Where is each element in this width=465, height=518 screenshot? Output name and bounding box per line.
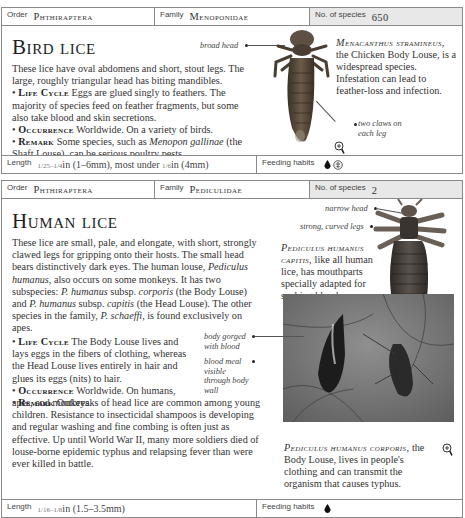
remark-text-pre: Some species, such as [57,136,147,147]
annotation-leader-line [254,336,304,337]
entry-title: Human lice [12,209,118,234]
entry-title: Bird lice [12,35,96,60]
length-label: Length [7,502,31,511]
length-text: in (1–6mm), most under [62,159,159,170]
feeding-habits-label: Feeding habits [262,502,314,511]
life-cycle-label: Life Cycle [18,87,69,98]
order-cell: Order Phthiraptera [2,181,155,198]
occurrence-label: Occurrence [18,385,74,396]
entry-footer-bird-lice: Length 1/25–1/4in (1–6mm), most under 1/… [1,155,463,174]
intro-species-2: P. humanus [61,286,108,297]
intro-text-5: subsp. [79,298,105,309]
order-label: Order [7,10,27,19]
species-count-value: 650 [372,12,389,23]
annotation-dot [252,360,255,363]
species-caption-corporis: Pediculus humanus corporis, the Body Lou… [284,442,434,490]
magnify-zoom-icon[interactable] [442,443,453,457]
entry-body-human-lice: Human lice These lice are small, pale, a… [1,199,463,499]
remark-label: Remark [18,397,54,408]
intro-species-5: capitis [107,298,134,309]
occurrence-label: Occurrence [18,124,74,135]
bird-louse-illustration [272,28,332,148]
annotation-body-gorged: body gorged with blood [204,332,259,351]
remark-block: • Remark Outbreaks of head lice are comm… [12,397,262,470]
order-label: Order [7,183,27,192]
length-text: in (1.5–3.5mm) [62,503,125,514]
order-cell: Order Phthiraptera [2,8,155,25]
intro-text: These lice have oval abdomens and short,… [12,63,247,87]
field-guide-page: Order Phthiraptera Family Menoponidae No… [0,0,465,518]
length-fraction: 1/16–1/8 [37,506,62,514]
entry-header-human-lice: Order Phthiraptera Family Pediculidae No… [1,180,463,199]
annotation-dot [354,123,357,126]
family-cell: Family Pediculidae [155,181,310,198]
annotation-narrow-head: narrow head [325,204,368,214]
length-cell: Length 1/25–1/4in (1–6mm), most under 1/… [2,156,257,173]
life-cycle-para: • Life Cycle Eggs are glued singly to fe… [12,87,247,124]
intro-para: These lice are small, pale, and elongate… [12,237,262,335]
remark-para: • Remark Outbreaks of head lice are comm… [12,397,262,470]
order-value: Phthiraptera [33,11,92,22]
intro-species-4: P. humanus [29,298,76,309]
species-count-value: 2 [372,185,378,196]
feeding-habits-cell: Feeding habits [257,500,462,517]
species-count-cell: No. of species 650 [310,8,462,25]
body-louse-photo [283,294,454,422]
species-caption-capitis: Pediculus humanus capitis, like all huma… [281,242,376,302]
intro-species-3: corporis [139,286,174,297]
feeding-habits-cell: Feeding habits [257,156,462,173]
family-value: Pediculidae [190,184,243,195]
annotation-strong-legs: strong, curved legs [300,222,364,232]
remark-species: Menopon gallinae [149,136,223,147]
occurrence-para: • Occurrence Worldwide. On a variety of … [12,124,247,136]
annotation-broad-head: broad head [200,41,238,51]
annotation-blood-meal: blood meal visible through body wall [204,357,249,395]
species-count-cell: No. of species 2 [310,181,462,198]
length-fraction: 1/25–1/4 [37,162,62,170]
entry-footer-human-lice: Length 1/16–1/8in (1.5–3.5mm) Feeding ha… [1,499,463,518]
caption-text: the Chicken Body Louse, is a widespread … [336,49,456,96]
occurrence-text: Worldwide. On a variety of birds. [76,124,213,135]
blood-drop-icon [324,160,331,169]
family-label: Family [160,10,184,19]
feeding-habits-label: Feeding habits [262,158,314,167]
family-value: Menoponidae [190,11,249,22]
length-value: 1/16–1/8in (1.5–3.5mm) [37,503,124,514]
length-cell: Length 1/16–1/8in (1.5–3.5mm) [2,500,257,517]
annotation-two-claws: two claws on each leg [358,119,418,138]
blood-drop-icon [324,504,331,513]
entry-description: These lice are small, pale, and elongate… [12,237,262,335]
length-value: 1/25–1/4in (1–6mm), most under 1/6in (4m… [37,159,208,170]
caption-species: Pediculus humanus corporis, [284,442,409,453]
remark-label: Remark [18,136,54,147]
length-text-2: in (4mm) [171,159,209,170]
intro-species-6: P. schaeffi, [100,310,144,321]
entry-description: These lice have oval abdomens and short,… [12,63,247,161]
magnify-zoom-icon[interactable] [334,141,345,155]
length-fraction-2: 1/6 [162,162,171,170]
family-cell: Family Menoponidae [155,8,310,25]
life-cycle-label: Life Cycle [18,336,69,347]
species-caption: Menacanthus stramineus, the Chicken Body… [336,37,456,97]
order-value: Phthiraptera [33,184,92,195]
species-count-label: No. of species [315,183,366,192]
life-cycle-para: • Life Cycle The Body Louse lives and la… [12,336,192,385]
entry-body-bird-lice: Bird lice These lice have oval abdomens … [1,26,463,155]
entry-header-bird-lice: Order Phthiraptera Family Menoponidae No… [1,7,463,26]
feather-skin-icon [333,160,343,170]
family-label: Family [160,183,184,192]
intro-text-3: subsp. [110,286,136,297]
length-label: Length [7,158,31,167]
caption-species: Menacanthus stramineus, [336,37,445,48]
species-count-label: No. of species [315,10,366,19]
